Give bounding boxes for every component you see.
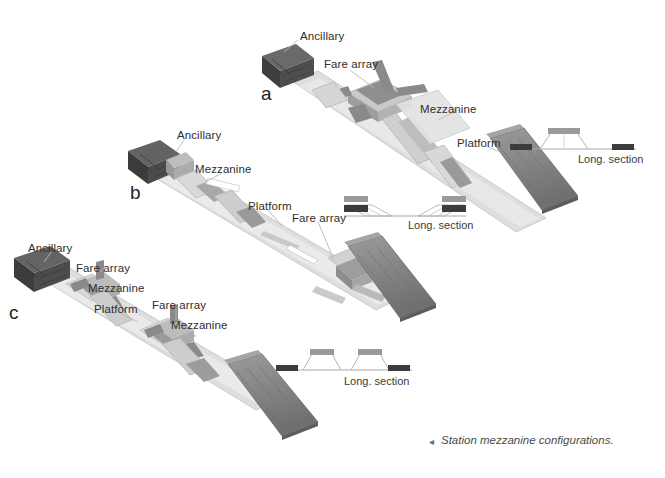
config-a-letter: a <box>261 83 272 105</box>
caption-marker-icon: ◂ <box>429 436 434 447</box>
config-b-illustration <box>128 140 436 322</box>
config-b-label-mezzanine: Mezzanine <box>195 163 252 175</box>
section-diagram-b <box>344 196 466 216</box>
section-diagram-c <box>274 349 412 371</box>
config-a-label-fare-array: Fare array <box>324 58 378 70</box>
config-b-label-fare-array: Fare array <box>292 212 346 224</box>
config-c-label-mezzanine-2: Mezzanine <box>171 319 228 331</box>
config-c-label-fare-array-2: Fare array <box>152 299 206 311</box>
config-a-label-platform: Platform <box>457 137 501 149</box>
figure-caption: Station mezzanine configurations. <box>441 434 614 446</box>
config-c-illustration <box>14 246 318 440</box>
config-c-label-mezzanine-1: Mezzanine <box>88 282 145 294</box>
config-a-illustration <box>262 44 578 232</box>
config-c-label-platform: Platform <box>94 303 138 315</box>
config-b-section-label: Long. section <box>408 219 473 231</box>
config-b-letter: b <box>130 182 141 204</box>
config-b-label-platform: Platform <box>248 200 292 212</box>
config-c-label-ancillary: Ancillary <box>28 242 72 254</box>
config-c-letter: c <box>9 302 19 324</box>
figure-canvas: a Ancillary Fare array Mezzanine Platfor… <box>0 0 665 478</box>
config-b-label-ancillary: Ancillary <box>177 129 221 141</box>
config-c-label-fare-array-1: Fare array <box>76 262 130 274</box>
isometric-illustrations <box>0 0 665 478</box>
config-a-section-label: Long. section <box>578 153 643 165</box>
config-c-section-label: Long. section <box>344 375 409 387</box>
config-a-label-ancillary: Ancillary <box>300 30 344 42</box>
config-a-label-mezzanine: Mezzanine <box>420 103 477 115</box>
